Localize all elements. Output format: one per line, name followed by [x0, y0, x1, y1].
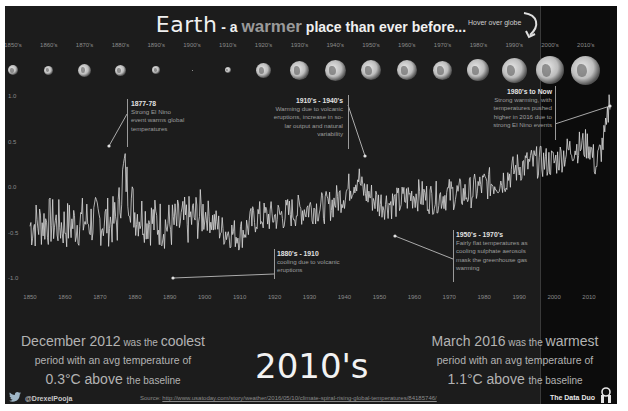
annotation-line: warming	[456, 264, 528, 272]
arrow-head-icon	[363, 154, 366, 157]
decade-globe-1950s[interactable]: 1950's	[353, 42, 389, 85]
decade-label: 1970's	[425, 42, 461, 52]
annotation-line: cooling due to volcanic	[277, 258, 340, 266]
stat-above: above	[483, 371, 529, 387]
y-tick-label: -0.5	[8, 230, 18, 236]
decade-globe-1940s[interactable]: 1940's	[317, 42, 353, 85]
stat-line2: period with an avg temperature of	[420, 354, 610, 366]
source-citation: Source: http://www.usatoday.com/story/we…	[140, 395, 437, 401]
globe-icon[interactable]	[397, 60, 417, 80]
footer: @DrexelPooja Source: http://www.usatoday…	[5, 390, 617, 404]
annotation-arrow	[173, 274, 274, 278]
x-tick-label: 1900	[198, 294, 211, 300]
decade-label: 1990's	[496, 42, 532, 52]
decade-label: 1890's	[138, 42, 174, 52]
twitter-icon[interactable]	[9, 392, 21, 402]
globe-icon[interactable]	[152, 66, 160, 74]
annotation-line: eruptions, increase in so-	[255, 113, 343, 121]
globe-icon[interactable]	[225, 67, 231, 73]
decade-globe-1980s[interactable]: 1980's	[460, 42, 496, 85]
source-label: Source:	[140, 395, 162, 401]
y-tick-label: -1.0	[8, 275, 18, 281]
stat-connector: was the	[506, 337, 546, 348]
globe-icon[interactable]	[536, 56, 564, 84]
x-tick-label: 1990	[512, 294, 525, 300]
globe-icon[interactable]	[78, 64, 91, 77]
decade-globe-1920s[interactable]: 1920's	[246, 42, 282, 85]
decade-globe-1930s[interactable]: 1930's	[281, 42, 317, 85]
x-tick-label: 2000	[547, 294, 560, 300]
x-tick-label: 1950	[373, 294, 386, 300]
arrow-head-icon	[107, 144, 110, 147]
annotation-bar	[127, 99, 128, 147]
curved-arrow-icon	[520, 10, 542, 40]
decade-globe-1870s[interactable]: 1870's	[67, 42, 103, 85]
x-tick-label: 1890	[163, 294, 176, 300]
decade-label: 1910's	[210, 42, 246, 52]
globe-icon[interactable]	[361, 60, 381, 80]
y-tick-label: 1.0	[8, 93, 16, 99]
annotation-1950s-1970s: 1950's - 1970's Fairly flat temperatures…	[456, 231, 528, 272]
x-tick-label: 1970	[443, 294, 456, 300]
globe-icon[interactable]	[8, 65, 18, 75]
decade-globe-1910s[interactable]: 1910's	[210, 42, 246, 85]
annotation-arrow	[395, 236, 453, 259]
title-dash: - a	[217, 19, 241, 35]
globe-icon[interactable]	[256, 63, 271, 78]
globe-icon[interactable]	[467, 59, 489, 81]
globe-icon[interactable]	[325, 60, 346, 81]
x-tick-label: 1870	[93, 294, 106, 300]
arrow-head-icon	[393, 234, 396, 237]
annotation-arrow	[348, 105, 365, 156]
annotation-1877: 1877-78 Strong El Nino event warms globa…	[131, 100, 184, 133]
globe-icon[interactable]	[44, 66, 53, 75]
arrow-head-icon	[608, 104, 611, 107]
annotation-arrow	[555, 106, 610, 124]
stat-above: above	[81, 371, 127, 387]
stat-baseline: the baseline	[529, 375, 583, 386]
decade-globe-1970s[interactable]: 1970's	[425, 42, 461, 85]
x-tick-label: 2010	[582, 294, 595, 300]
x-tick-label: 1960	[408, 294, 421, 300]
annotation-line: Strong El Nino	[131, 108, 184, 116]
decade-globe-2010s[interactable]: 2010's	[568, 42, 604, 85]
globe-icon[interactable]	[502, 58, 527, 83]
globe-icon[interactable]	[192, 70, 193, 71]
decade-label: 1860's	[31, 42, 67, 52]
data-duo-logo-icon	[598, 387, 614, 403]
globe-icon[interactable]	[290, 61, 309, 80]
arrow-head-icon	[171, 276, 174, 279]
annotation-line: mask the greenhouse gas	[456, 256, 528, 264]
decade-globe-1850s[interactable]: 1850's	[5, 42, 31, 85]
x-tick-label: 1930	[303, 294, 316, 300]
source-link[interactable]: http://www.usatoday.com/story/weather/20…	[162, 395, 436, 401]
twitter-handle[interactable]: @DrexelPooja	[25, 395, 72, 402]
annotation-line: variability	[255, 130, 343, 138]
annotation-head: 1880's - 1910	[277, 250, 340, 258]
decade-globe-1880s[interactable]: 1880's	[102, 42, 138, 85]
stat-baseline: the baseline	[127, 375, 181, 386]
decade-globe-1900s[interactable]: 1900's	[174, 42, 210, 85]
annotation-1980s-now: 1980's to Now Strong warming, with tempe…	[470, 88, 552, 129]
decade-globe-2000s[interactable]: 2000's	[532, 42, 568, 85]
decade-globe-1960s[interactable]: 1960's	[389, 42, 425, 85]
decade-label: 1920's	[246, 42, 282, 52]
decade-globe-1890s[interactable]: 1890's	[138, 42, 174, 85]
annotation-bar	[453, 230, 454, 282]
decade-globe-1860s[interactable]: 1860's	[31, 42, 67, 85]
globe-icon[interactable]	[571, 56, 600, 85]
decade-label: 1950's	[353, 42, 389, 52]
globe-icon[interactable]	[115, 65, 126, 76]
annotation-line: Fairly flat temperatures as	[456, 239, 528, 247]
annotation-line: cooling sulphate aerosols	[456, 247, 528, 255]
decade-globe-1990s[interactable]: 1990's	[496, 42, 532, 85]
annotation-line: lar output and natural	[255, 122, 343, 130]
globe-icon[interactable]	[433, 61, 452, 80]
annotation-line: Warming due to volcanic	[255, 105, 343, 113]
decade-label: 1930's	[281, 42, 317, 52]
decade-label: 1980's	[460, 42, 496, 52]
decade-label: 1940's	[317, 42, 353, 52]
annotation-line: higher in 2016 due to	[470, 113, 552, 121]
annotation-bar	[348, 95, 349, 149]
decade-globe-row: 1850's1860's1870's1880's1890's1900's1910…	[5, 42, 617, 92]
